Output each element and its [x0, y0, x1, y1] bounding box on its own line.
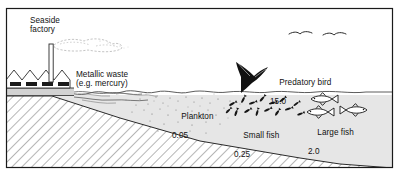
large-fish-name: Large fish: [317, 128, 353, 137]
label-seaside-factory: Seaside factory: [30, 16, 60, 35]
bioaccumulation-diagram: Seaside factory Metallic waste (e.g. mer…: [0, 0, 399, 176]
label-small-fish: Small fish 0.25: [234, 122, 279, 176]
predatory-bird-name: Predatory bird: [279, 78, 331, 87]
large-fish-value: 2.0: [308, 147, 354, 156]
label-metallic-waste: Metallic waste (e.g. mercury): [76, 70, 128, 89]
label-plankton: Plankton 0.05: [172, 103, 214, 159]
factory-chimney: [49, 44, 53, 82]
label-predatory-bird: Predatory bird 15.0: [270, 69, 331, 125]
small-fish-value: 0.25: [234, 150, 279, 159]
label-large-fish: Large fish 2.0: [308, 119, 354, 175]
plankton-value: 0.05: [172, 131, 214, 140]
factory-window: [26, 82, 37, 86]
factory-window: [58, 82, 69, 86]
small-fish-name: Small fish: [243, 131, 279, 140]
plankton-name: Plankton: [181, 112, 213, 121]
shoreline-strip: [6, 88, 74, 96]
factory-window: [42, 82, 53, 86]
predatory-bird-value: 15.0: [270, 97, 331, 106]
factory-window: [10, 82, 21, 86]
